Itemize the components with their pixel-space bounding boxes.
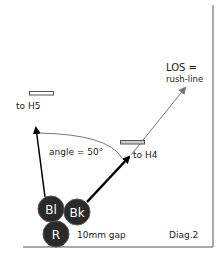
- gap-label: 10mm gap: [77, 230, 126, 240]
- angle-label: angle = 50°: [49, 147, 103, 157]
- arrow-to-h5: [36, 128, 45, 197]
- svg-text:R: R: [52, 228, 60, 242]
- h4-target-bar: [121, 141, 145, 145]
- los-label-line2: rush-line: [166, 74, 203, 84]
- los-label-line1: LOS =: [166, 63, 197, 73]
- diagram-canvas: Bl Bk R: [0, 0, 222, 258]
- to-h5-label: to H5: [16, 101, 40, 111]
- ball-bk: Bk: [64, 199, 90, 225]
- to-h4-label: to H4: [133, 150, 157, 160]
- ball-r: R: [43, 221, 69, 247]
- svg-text:Bk: Bk: [69, 206, 84, 220]
- h5-target-bar: [30, 92, 54, 96]
- diagram-caption: Diag.2: [169, 230, 198, 240]
- arrow-to-h4: [87, 157, 129, 202]
- svg-text:Bl: Bl: [45, 203, 57, 217]
- ball-bl: Bl: [38, 196, 64, 222]
- los-arrow: [131, 88, 185, 155]
